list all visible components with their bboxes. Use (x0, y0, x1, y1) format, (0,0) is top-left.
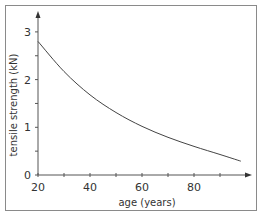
data-line (38, 41, 241, 161)
y-axis-label: tensile strength (kN) (8, 53, 19, 156)
x-tick-label: 40 (83, 181, 97, 194)
y-tick-label: 1 (24, 121, 31, 134)
line-chart: 204060800123 age (years) tensile strengt… (0, 0, 261, 216)
axes (36, 11, 253, 178)
y-tick-label: 2 (24, 74, 31, 87)
x-tick-label: 60 (135, 181, 149, 194)
ticks: 204060800123 (24, 26, 220, 194)
x-tick-label: 20 (31, 181, 45, 194)
y-tick-label: 0 (24, 169, 31, 182)
x-tick-label: 80 (187, 181, 201, 194)
y-arrow-icon (36, 11, 41, 18)
x-axis-label: age (years) (118, 197, 175, 208)
x-arrow-icon (245, 173, 252, 178)
y-tick-label: 3 (24, 26, 31, 39)
